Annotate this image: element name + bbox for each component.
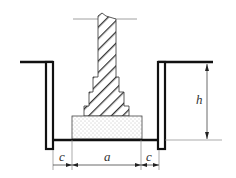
clearance-right-label: c [146, 149, 152, 164]
depth-label: h [196, 92, 203, 107]
foundation-pit-diagram: h c a c [0, 0, 236, 178]
right-wall [158, 62, 213, 149]
width-label: a [104, 149, 111, 164]
clearance-left-label: c [59, 149, 65, 164]
depth-dimension: h [165, 64, 222, 140]
sand-cushion [72, 116, 142, 139]
stepped-column [84, 13, 129, 116]
width-dimensions: c a c [53, 140, 159, 170]
left-wall [20, 62, 53, 149]
